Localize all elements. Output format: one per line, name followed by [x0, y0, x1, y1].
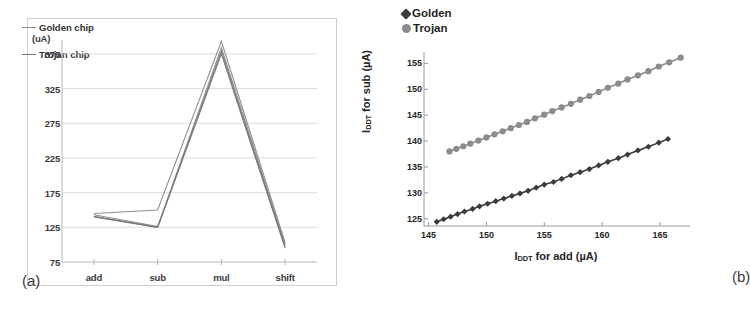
panel-b-plot — [424, 52, 690, 226]
panel-b-x-axis-label: IDDT for add (µA) — [422, 250, 690, 263]
x-tick-label: 165 — [652, 230, 667, 240]
x-tick-label: 160 — [595, 230, 610, 240]
y-tick-label: 275 — [26, 118, 60, 129]
y-tick-label: 125 — [396, 214, 422, 224]
diamond-marker-icon — [400, 8, 411, 19]
legend-item-golden-chip: Golden chip — [22, 22, 94, 33]
y-axis-label-subscript: DDT — [364, 115, 373, 130]
y-tick-label: 155 — [396, 58, 422, 68]
panel-a-caption: (a) — [22, 272, 40, 289]
x-tick-label: 155 — [537, 230, 552, 240]
legend-line-icon — [22, 27, 36, 28]
panel-b-y-axis: 125130135140145150155 — [392, 52, 422, 226]
y-tick-label: 135 — [396, 162, 422, 172]
y-tick-label: 145 — [396, 110, 422, 120]
y-tick-label: 125 — [26, 222, 60, 233]
x-tick-label: 145 — [421, 230, 436, 240]
x-axis-label-rest: for add (µA) — [532, 250, 597, 262]
x-tick-label: shift — [276, 272, 295, 283]
legend-item-trojan: Trojan — [402, 21, 452, 36]
y-tick-label: 175 — [26, 187, 60, 198]
y-tick-label: 130 — [396, 188, 422, 198]
legend-label-golden-chip: Golden chip — [39, 22, 94, 33]
y-tick-label: 150 — [396, 84, 422, 94]
y-tick-label: 140 — [396, 136, 422, 146]
circle-marker-icon — [402, 24, 411, 33]
legend-item-golden: Golden — [402, 6, 452, 21]
panel-b: IDDT for sub (µA) IDDT for add (µA) 1251… — [374, 0, 748, 312]
legend-label-trojan: Trojan — [413, 21, 448, 36]
y-tick-label: 225 — [26, 152, 60, 163]
legend-line-icon — [22, 54, 36, 55]
x-tick-label: sub — [149, 272, 165, 283]
y-axis-label-main: I — [360, 130, 372, 133]
panel-b-caption: (b) — [732, 268, 750, 285]
y-tick-label: 325 — [26, 83, 60, 94]
panel-a-plot — [62, 40, 317, 262]
panel-b-y-axis-label: IDDT for sub (µA) — [360, 50, 373, 133]
x-tick-label: add — [86, 272, 102, 283]
panel-b-legend: Golden Trojan — [402, 6, 452, 36]
x-tick-label: 150 — [479, 230, 494, 240]
y-tick-label: 75 — [26, 257, 60, 268]
legend-label-golden: Golden — [412, 6, 452, 21]
y-axis-label-rest: for sub (µA) — [360, 50, 372, 115]
x-tick-label: mul — [213, 272, 229, 283]
panel-a: (uA) 75125175225275325375 addsubmulshift… — [0, 0, 374, 312]
x-axis-label-subscript: DDT — [518, 254, 533, 263]
